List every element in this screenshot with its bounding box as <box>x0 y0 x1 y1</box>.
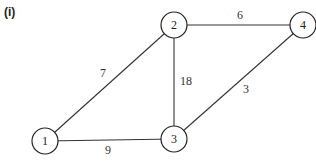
node-2: 2 <box>161 12 187 38</box>
node-3: 3 <box>161 126 187 152</box>
node-label: 2 <box>171 18 177 32</box>
weighted-graph: 761839 1234 <box>0 0 316 162</box>
edge-1-3 <box>45 139 174 141</box>
edges-group <box>45 25 303 141</box>
edge-weight-3-4: 3 <box>243 82 249 96</box>
node-label: 1 <box>42 134 48 148</box>
edge-3-4 <box>174 25 303 139</box>
node-label: 4 <box>300 18 306 32</box>
edge-1-2 <box>45 25 174 141</box>
node-label: 3 <box>171 132 177 146</box>
edge-weight-2-3: 18 <box>180 74 192 88</box>
edge-weight-1-2: 7 <box>100 66 106 80</box>
edge-weight-1-3: 9 <box>105 143 111 157</box>
node-4: 4 <box>290 12 316 38</box>
node-1: 1 <box>32 128 58 154</box>
edge-weight-2-4: 6 <box>237 8 243 22</box>
